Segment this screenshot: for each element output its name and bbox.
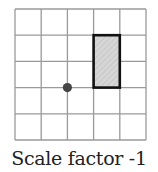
caption: Scale factor -1 — [0, 146, 158, 170]
grid-lines — [15, 9, 146, 140]
center-of-enlargement-dot — [63, 83, 72, 92]
shaded-rectangle — [94, 35, 120, 87]
grid-diagram — [0, 0, 158, 148]
